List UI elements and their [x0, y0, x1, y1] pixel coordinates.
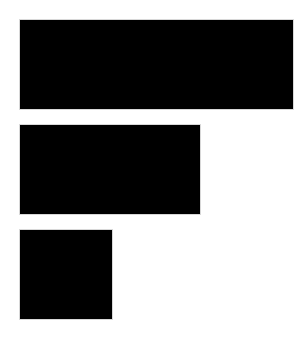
bar-1 — [20, 20, 293, 109]
bar-2 — [20, 125, 200, 214]
bar-3 — [20, 230, 112, 319]
horizontal-bar-chart — [0, 0, 307, 337]
